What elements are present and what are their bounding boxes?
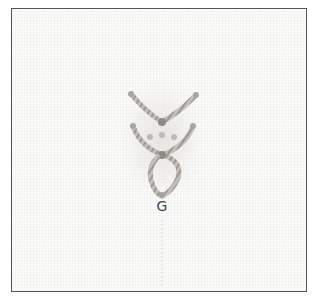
step-label: G [149,198,175,214]
embroidery-stitch-illustration [0,0,316,297]
